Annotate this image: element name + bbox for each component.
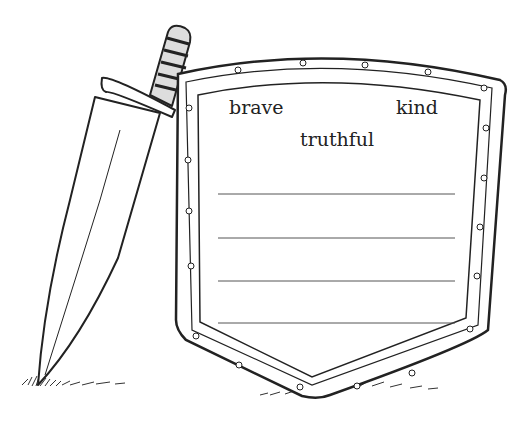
shield-icon bbox=[176, 58, 506, 397]
word-brave: brave bbox=[229, 96, 284, 118]
sword-icon bbox=[38, 26, 190, 385]
word-kind: kind bbox=[396, 96, 438, 118]
illustration bbox=[0, 0, 526, 433]
word-truthful: truthful bbox=[300, 128, 374, 150]
